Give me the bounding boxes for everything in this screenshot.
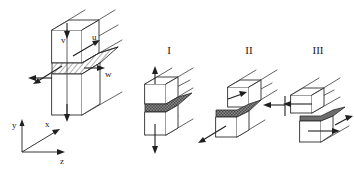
mode-2-upper-front-face — [228, 87, 249, 107]
fracture-modes-figure: v u w y x z I — [0, 0, 354, 172]
main-block-group: v u w — [28, 10, 122, 122]
mode-1-label: I — [167, 44, 171, 56]
mode-2-label: II — [245, 44, 253, 56]
mode-3-label: III — [313, 44, 324, 56]
mode-2-arrow-external-left — [263, 102, 285, 108]
mode-3-group: III — [283, 44, 353, 142]
mode-1-upper-front-face — [145, 84, 166, 104]
label-axis-y: y — [12, 120, 17, 130]
mode-2-group: II — [198, 44, 285, 143]
mode-2-lower-front-face — [216, 117, 237, 137]
axes-group: y x z — [12, 119, 65, 166]
mode-1-group: I — [145, 44, 193, 154]
label-axis-x: x — [45, 119, 50, 129]
label-w: w — [105, 69, 112, 79]
label-axis-z: z — [60, 156, 64, 166]
label-v: v — [61, 35, 66, 45]
label-u: u — [92, 32, 97, 42]
mode-3-arrow-outer-right — [335, 115, 353, 125]
figure-canvas: v u w y x z I — [0, 0, 354, 172]
